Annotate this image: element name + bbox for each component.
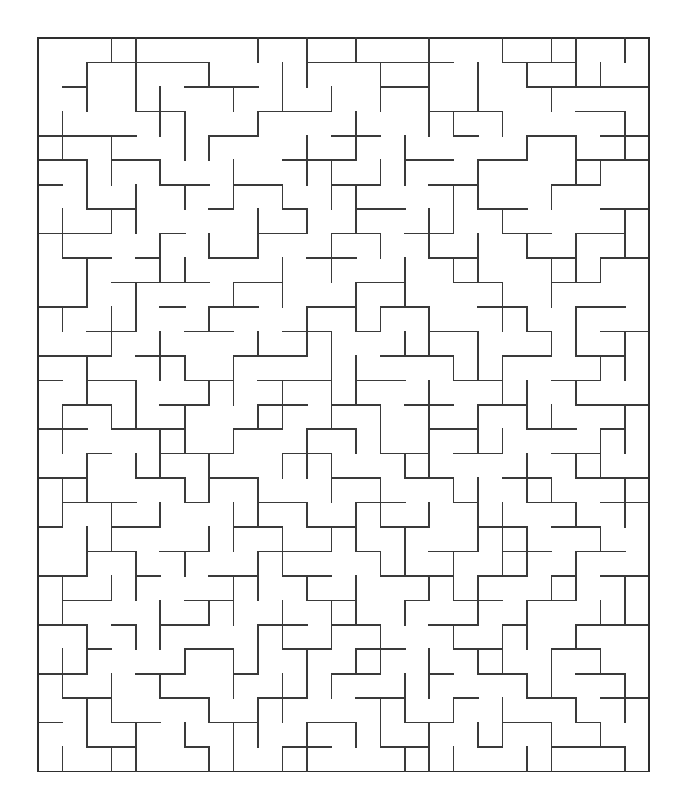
- maze-canvas: [0, 0, 684, 806]
- maze-page: [0, 0, 684, 806]
- maze-background: [0, 0, 684, 806]
